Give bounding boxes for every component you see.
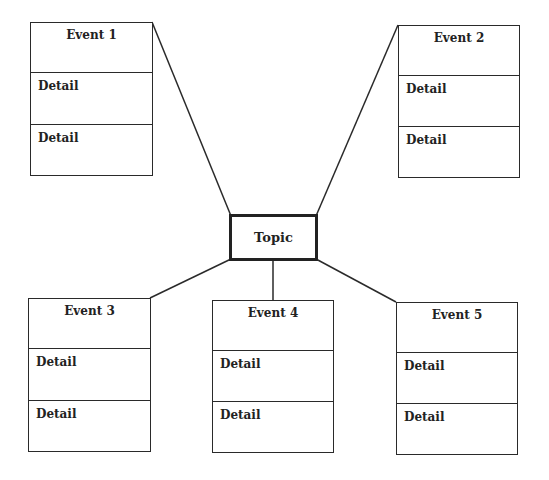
event-box-3: Event 3 Detail Detail — [28, 298, 151, 452]
event-box-5: Event 5 Detail Detail — [396, 302, 518, 455]
event-box-2: Event 2 Detail Detail — [398, 25, 520, 178]
event-detail: Detail — [213, 350, 333, 401]
event-box-1: Event 1 Detail Detail — [30, 22, 153, 176]
event-detail: Detail — [399, 126, 519, 177]
event-detail: Detail — [213, 401, 333, 452]
connector-topic-event-2 — [316, 25, 398, 216]
event-detail: Detail — [397, 352, 517, 403]
event-title: Event 5 — [397, 303, 517, 352]
event-detail: Detail — [31, 72, 152, 123]
event-detail: Detail — [397, 403, 517, 454]
event-detail: Detail — [31, 124, 152, 175]
topic-box: Topic — [229, 214, 318, 261]
topic-label: Topic — [254, 230, 293, 245]
connector-topic-event-1 — [152, 22, 231, 216]
event-title: Event 3 — [29, 299, 150, 348]
event-title: Event 4 — [213, 301, 333, 350]
event-detail: Detail — [29, 348, 150, 399]
event-box-4: Event 4 Detail Detail — [212, 300, 334, 453]
event-title: Event 1 — [31, 23, 152, 72]
event-title: Event 2 — [399, 26, 519, 75]
event-detail: Detail — [29, 400, 150, 451]
event-detail: Detail — [399, 75, 519, 126]
connector-topic-event-5 — [316, 259, 396, 302]
connector-topic-event-3 — [150, 259, 231, 298]
